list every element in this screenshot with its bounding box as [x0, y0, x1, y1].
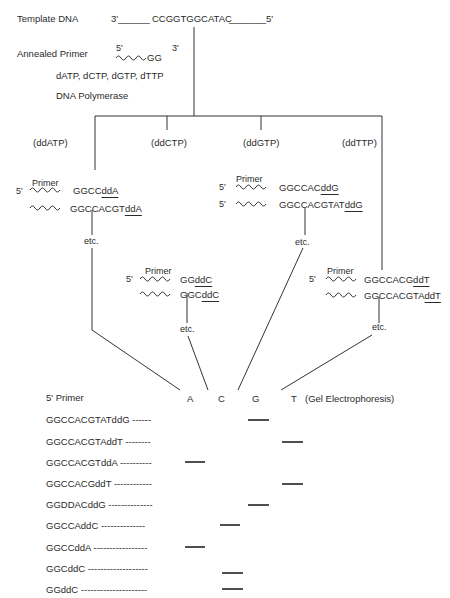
five-prime-mark: 5': [16, 186, 23, 197]
product-ddA-2: GGCCACGTddA: [70, 203, 142, 214]
fragment-label: GGCCACGTATddG ------: [46, 414, 151, 425]
etc-ddG: etc.: [295, 237, 310, 248]
gel-title: (Gel Electrophoresis): [305, 393, 394, 404]
fragment-label: GGCCACGTAddT --------: [46, 436, 151, 447]
product-ddT-1: GGCCACGddT: [364, 274, 429, 285]
primer-wave-icon: [140, 292, 170, 296]
template-blank-left: ______: [118, 13, 150, 24]
primer-word: Primer: [32, 178, 59, 189]
etc-ddA: etc.: [84, 236, 99, 247]
primer-wave-icon: [140, 277, 170, 281]
gel-primer-header: 5' Primer: [46, 392, 84, 403]
fragment-label: GGCCACGddT ------------: [46, 478, 152, 489]
primer-wave-icon: [236, 185, 266, 189]
enzyme-label: DNA Polymerase: [56, 90, 128, 101]
primer-wave-icon: [326, 293, 356, 297]
primer-word: Primer: [236, 174, 263, 185]
primer-3prime: 3': [172, 43, 179, 54]
product-ddC-1: GGddC: [180, 274, 212, 285]
lane-label-G: G: [252, 393, 259, 404]
primer-wave-icon: [116, 56, 146, 60]
five-prime-mark: 5': [219, 199, 226, 210]
product-ddA-1: GGCCddA: [73, 185, 118, 196]
five-prime-mark: 5': [126, 274, 133, 285]
primer-wave-icon: [30, 206, 60, 210]
template-sequence: CCGGTGGCATAC: [152, 13, 232, 24]
lane-label-C: C: [218, 393, 225, 404]
product-ddG-2: GGCCACGTATddG: [279, 199, 363, 210]
reaction-label-ddGTP: (ddGTP): [243, 137, 279, 148]
template-dna-label: Template DNA: [17, 13, 78, 24]
etc-ddC: etc.: [180, 324, 195, 335]
primer-word: Primer: [327, 266, 354, 277]
reaction-label-ddTTP: (ddTTP): [342, 137, 377, 148]
lane-label-A: A: [187, 393, 193, 404]
template-blank-right: _______: [229, 13, 266, 24]
fragment-label: GGDDACddG --------------: [46, 499, 153, 510]
product-ddT-2: GGCCACGTAddT: [364, 290, 441, 301]
fragment-label: GGCCACGTddA ----------: [46, 457, 152, 468]
fragment-label: GGCCddA -----------------: [46, 542, 147, 553]
product-ddC-2: GGCddC: [180, 289, 219, 300]
primer-wave-icon: [236, 202, 266, 206]
fragment-label: GGCCAddC --------------: [46, 520, 145, 531]
etc-ddT: etc.: [372, 322, 387, 333]
nucleotides-label: dATP, dCTP, dGTP, dTTP: [56, 70, 164, 81]
five-prime-mark: 5': [219, 182, 226, 193]
primer-word: Primer: [145, 266, 172, 277]
fragment-label: GGCddC -------------------: [46, 563, 148, 574]
primer-seq: GG: [147, 52, 162, 63]
annealed-primer-label: Annealed Primer: [17, 48, 88, 59]
fragment-label: GGddC ---------------------: [46, 584, 147, 595]
primer-wave-icon: [326, 277, 356, 281]
template-5prime: 5': [266, 13, 273, 24]
reaction-label-ddCTP: (ddCTP): [151, 137, 187, 148]
five-prime-mark: 5': [309, 274, 316, 285]
product-ddG-1: GGCCACddG: [279, 182, 339, 193]
reaction-label-ddATP: (ddATP): [33, 137, 68, 148]
lane-label-T: T: [291, 393, 297, 404]
primer-5prime: 5': [116, 43, 123, 54]
